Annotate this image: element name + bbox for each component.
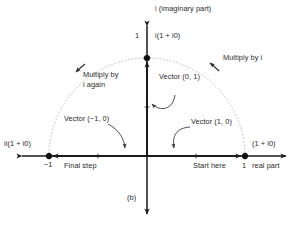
annotation-multiply-by-i: Multiply by i [223,53,262,63]
annotation-vector-1-0: Vector (1, 0) [191,117,232,127]
tick-label-x-neg1: −1 [44,160,53,170]
tick-label-x-1: 1 [242,161,246,171]
point-label-top: i(1 + i0) [155,31,180,41]
point-label-right: (1 + i0) [252,139,276,149]
annotation-vector-neg1-0: Vector (−1, 0) [64,114,109,124]
annotation-multiply-by-i-again: Multiply by i again [83,70,118,89]
complex-plane-figure: i (imaginary part) 1 i(1 + i0) Multiply … [0,0,300,229]
point-i-times-1-plus-i0 [144,55,150,61]
point-label-left: ii(1 + i0) [4,139,31,149]
imaginary-axis-label: i (imaginary part) [155,4,211,14]
tick-label-y-1: 1 [135,31,139,41]
panel-label: (b) [127,193,136,203]
leader-vector-1-0 [174,127,190,148]
annotation-final-step: Final step [64,161,97,171]
figure-canvas [0,0,300,229]
annotation-vector-0-1: Vector (0, 1) [159,72,200,82]
point-1-plus-i0 [242,153,248,159]
leader-vector-0-1 [152,95,175,109]
leader-vector-neg1-0 [108,124,125,148]
real-axis-label: real part [252,161,280,171]
point-ii-times-1-plus-i0 [46,153,52,159]
annotation-start-here: Start here [193,161,226,171]
rotation-arrowhead-right [210,63,219,71]
